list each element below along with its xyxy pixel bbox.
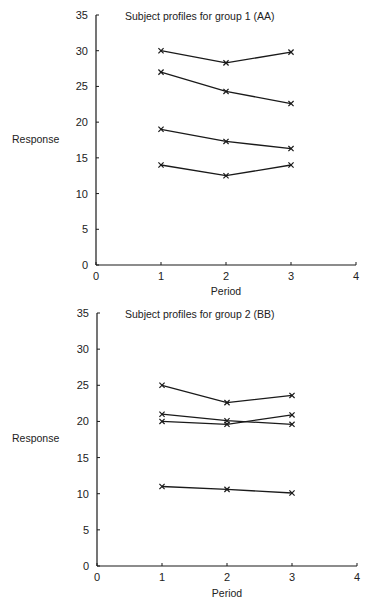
x-tick-label: 2	[223, 270, 229, 282]
y-tick-label: 20	[77, 415, 89, 427]
x-tick-label: 1	[158, 270, 164, 282]
chart-panel-group-2: 0510152025303501234Subject profiles for …	[0, 302, 368, 605]
y-tick-label: 5	[82, 223, 88, 235]
y-tick-label: 15	[77, 452, 89, 464]
x-axis-label: Period	[212, 587, 243, 599]
x-tick-label: 0	[93, 270, 99, 282]
x-tick-label: 3	[289, 571, 295, 583]
y-tick-label: 25	[76, 80, 88, 92]
line-chart-group-2: 0510152025303501234Subject profiles for …	[0, 302, 368, 605]
y-tick-label: 35	[77, 307, 89, 319]
chart-title: Subject profiles for group 1 (AA)	[125, 10, 274, 22]
y-tick-label: 20	[76, 116, 88, 128]
y-tick-label: 0	[82, 259, 88, 271]
y-tick-label: 15	[76, 152, 88, 164]
x-tick-label: 4	[354, 571, 360, 583]
series-3	[158, 127, 293, 151]
series-line	[161, 129, 291, 148]
x-tick-label: 4	[353, 270, 359, 282]
line-chart-group-1: 0510152025303501234Subject profiles for …	[0, 0, 368, 302]
series-line	[161, 165, 291, 176]
series-4	[158, 162, 293, 178]
y-axis-label: Response	[12, 133, 59, 145]
series-1	[159, 383, 294, 406]
x-tick-label: 3	[288, 270, 294, 282]
y-tick-label: 35	[76, 9, 88, 21]
y-tick-label: 0	[83, 560, 89, 572]
y-tick-label: 5	[83, 524, 89, 536]
y-tick-label: 10	[76, 188, 88, 200]
y-tick-label: 10	[77, 488, 89, 500]
series-2	[158, 70, 293, 107]
y-tick-label: 30	[77, 343, 89, 355]
x-axis-label: Period	[211, 285, 242, 297]
series-3	[159, 412, 294, 427]
series-line	[162, 385, 292, 402]
x-tick-label: 1	[159, 571, 165, 583]
chart-panel-group-1: 0510152025303501234Subject profiles for …	[0, 0, 368, 302]
y-tick-label: 30	[76, 45, 88, 57]
y-axis-label: Response	[12, 432, 59, 444]
series-line	[161, 51, 291, 63]
x-tick-label: 0	[94, 571, 100, 583]
x-tick-label: 2	[224, 571, 230, 583]
chart-title: Subject profiles for group 2 (BB)	[125, 308, 274, 320]
y-tick-label: 25	[77, 379, 89, 391]
series-1	[158, 48, 293, 65]
series-4	[159, 484, 294, 496]
series-line	[161, 72, 291, 103]
